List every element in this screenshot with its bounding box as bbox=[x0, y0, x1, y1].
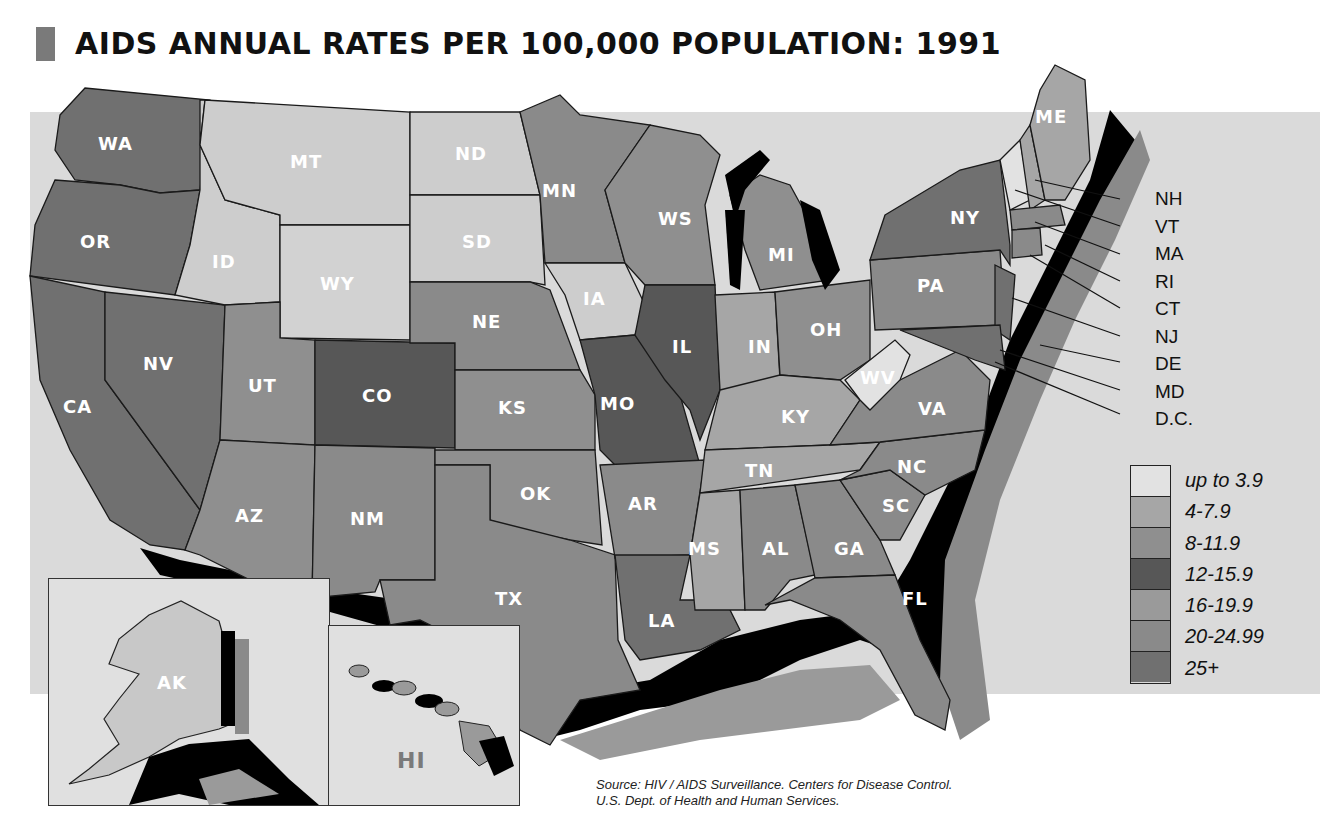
label-NC: NC bbox=[897, 456, 927, 477]
legend-label: 16-19.9 bbox=[1185, 590, 1264, 621]
label-OK: OK bbox=[520, 483, 551, 504]
callout-DE: DE bbox=[1155, 350, 1193, 378]
label-HI: HI bbox=[397, 748, 426, 773]
callout-NH: NH bbox=[1155, 185, 1193, 213]
legend-labels: up to 3.9 4-7.9 8-11.9 12-15.9 16-19.9 2… bbox=[1185, 465, 1264, 684]
legend-swatch bbox=[1131, 590, 1170, 621]
label-KY: KY bbox=[781, 406, 810, 427]
label-OR: OR bbox=[80, 231, 111, 252]
label-MO: MO bbox=[600, 393, 635, 414]
label-AZ: AZ bbox=[235, 505, 264, 526]
northeast-callouts: NH VT MA RI CT NJ DE MD D.C. bbox=[1155, 185, 1193, 433]
callout-MA: MA bbox=[1155, 240, 1193, 268]
label-ME: ME bbox=[1035, 106, 1067, 127]
callout-DC: D.C. bbox=[1155, 405, 1193, 433]
legend-swatch bbox=[1131, 621, 1170, 652]
label-IA: IA bbox=[583, 288, 606, 309]
hawaii-inset: HI bbox=[328, 625, 520, 806]
label-FL: FL bbox=[902, 588, 928, 609]
hawaii-map: HI bbox=[329, 626, 519, 805]
label-VA: VA bbox=[918, 398, 947, 419]
label-KS: KS bbox=[498, 397, 527, 418]
label-GA: GA bbox=[834, 538, 865, 559]
label-ND: ND bbox=[455, 143, 487, 164]
callout-CT: CT bbox=[1155, 295, 1193, 323]
label-WY: WY bbox=[320, 273, 355, 294]
label-NE: NE bbox=[472, 311, 501, 332]
label-MT: MT bbox=[290, 151, 322, 172]
label-IL: IL bbox=[672, 336, 692, 357]
legend-label: 12-15.9 bbox=[1185, 559, 1264, 590]
label-NV: NV bbox=[143, 353, 174, 374]
label-CO: CO bbox=[362, 385, 393, 406]
label-OH: OH bbox=[810, 319, 842, 340]
label-MI: MI bbox=[768, 244, 795, 265]
state-OR[interactable] bbox=[30, 180, 200, 295]
callout-NJ: NJ bbox=[1155, 323, 1193, 351]
source-line-2: U.S. Dept. of Health and Human Services. bbox=[596, 793, 952, 809]
label-SC: SC bbox=[882, 495, 910, 516]
state-MA[interactable] bbox=[1010, 205, 1065, 230]
label-LA: LA bbox=[648, 610, 675, 631]
label-WA: WA bbox=[98, 133, 133, 154]
label-NY: NY bbox=[950, 207, 980, 228]
source-line-1: Source: HIV / AIDS Surveillance. Centers… bbox=[596, 777, 952, 793]
label-MS: MS bbox=[688, 538, 721, 559]
state-CT[interactable] bbox=[1012, 228, 1042, 258]
label-AK: AK bbox=[157, 672, 187, 693]
legend-swatches bbox=[1130, 465, 1171, 684]
legend-label: 4-7.9 bbox=[1185, 496, 1264, 527]
legend-swatch bbox=[1131, 652, 1170, 682]
callout-VT: VT bbox=[1155, 213, 1193, 241]
legend-swatch bbox=[1131, 497, 1170, 528]
label-AL: AL bbox=[762, 538, 789, 559]
label-WS: WS bbox=[658, 208, 693, 229]
label-MN: MN bbox=[542, 180, 577, 201]
callout-RI: RI bbox=[1155, 268, 1193, 296]
source-note: Source: HIV / AIDS Surveillance. Centers… bbox=[596, 777, 952, 809]
legend-label: up to 3.9 bbox=[1185, 465, 1264, 496]
legend-label: 20-24.99 bbox=[1185, 621, 1264, 652]
label-AR: AR bbox=[628, 493, 658, 514]
legend-swatch bbox=[1131, 466, 1170, 497]
state-NY[interactable] bbox=[870, 160, 1010, 265]
legend-swatch bbox=[1131, 528, 1170, 559]
legend-swatch bbox=[1131, 559, 1170, 590]
lake-michigan bbox=[725, 210, 745, 290]
label-PA: PA bbox=[917, 275, 944, 296]
legend-label: 25+ bbox=[1185, 653, 1264, 684]
label-TX: TX bbox=[495, 588, 523, 609]
alaska-inset: AK bbox=[48, 578, 330, 806]
label-IN: IN bbox=[748, 336, 772, 357]
label-ID: ID bbox=[212, 251, 236, 272]
label-NM: NM bbox=[350, 508, 385, 529]
label-SD: SD bbox=[462, 231, 492, 252]
callout-MD: MD bbox=[1155, 378, 1193, 406]
legend: up to 3.9 4-7.9 8-11.9 12-15.9 16-19.9 2… bbox=[1130, 465, 1264, 684]
label-UT: UT bbox=[248, 375, 277, 396]
label-TN: TN bbox=[745, 460, 774, 481]
label-WV: WV bbox=[860, 367, 896, 388]
label-CA: CA bbox=[63, 396, 92, 417]
alaska-map: AK bbox=[49, 579, 329, 805]
legend-label: 8-11.9 bbox=[1185, 528, 1264, 559]
